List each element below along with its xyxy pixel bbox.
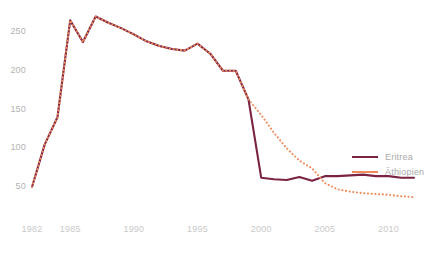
y-tick-label-100: 100 (0, 142, 26, 152)
legend-item-aethiopien[interactable]: Äthiopien (352, 164, 424, 179)
line-chart: 25020015010050 1982198519901995200020052… (0, 0, 431, 257)
y-tick-label-50: 50 (0, 181, 26, 191)
y-tick-label-150: 150 (0, 104, 26, 114)
legend-label-aethiopien: Äthiopien (385, 167, 424, 177)
legend-swatch-eritrea (352, 156, 378, 158)
legend-swatch-aethiopien (352, 171, 378, 173)
x-tick-label-1990: 1990 (114, 224, 154, 234)
x-tick-label-2010: 2010 (369, 224, 409, 234)
x-tick-label-1995: 1995 (178, 224, 218, 234)
legend-item-eritrea[interactable]: Eritrea (352, 149, 424, 164)
y-tick-label-200: 200 (0, 65, 26, 75)
x-tick-label-2000: 2000 (241, 224, 281, 234)
x-tick-label-1985: 1985 (50, 224, 90, 234)
y-tick-label-250: 250 (0, 26, 26, 36)
chart-legend: Eritrea Äthiopien (352, 149, 424, 179)
x-tick-label-2005: 2005 (305, 224, 345, 234)
x-tick-label-1982: 1982 (12, 224, 52, 234)
plot-area (0, 0, 431, 257)
legend-label-eritrea: Eritrea (385, 152, 413, 162)
